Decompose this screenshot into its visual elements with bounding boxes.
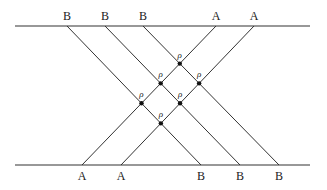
scattering-node [139,101,143,105]
rho-label: ρ [177,50,183,60]
bottom-label: A [117,169,126,183]
top-label: B [101,9,109,23]
scattering-node [178,101,182,105]
bottom-label: B [197,169,205,183]
top-label: A [250,9,259,23]
crossing-diagram: BBBAAAABBBρρρρρρ [0,0,327,190]
bottom-label: A [78,169,87,183]
scattering-node [197,81,201,85]
bottom-label: B [275,169,283,183]
rho-label: ρ [158,109,164,119]
b-worldline [105,26,240,165]
rho-label: ρ [138,89,144,99]
b-worldline [143,26,279,165]
top-label: B [139,9,147,23]
rho-label: ρ [158,69,164,79]
scattering-node [178,61,182,65]
scattering-node [159,121,163,125]
a-worldline [82,26,216,165]
top-label: A [212,9,221,23]
rho-label: ρ [177,89,183,99]
rho-label: ρ [196,69,202,79]
scattering-node [159,81,163,85]
top-label: B [63,9,71,23]
bottom-label: B [236,169,244,183]
